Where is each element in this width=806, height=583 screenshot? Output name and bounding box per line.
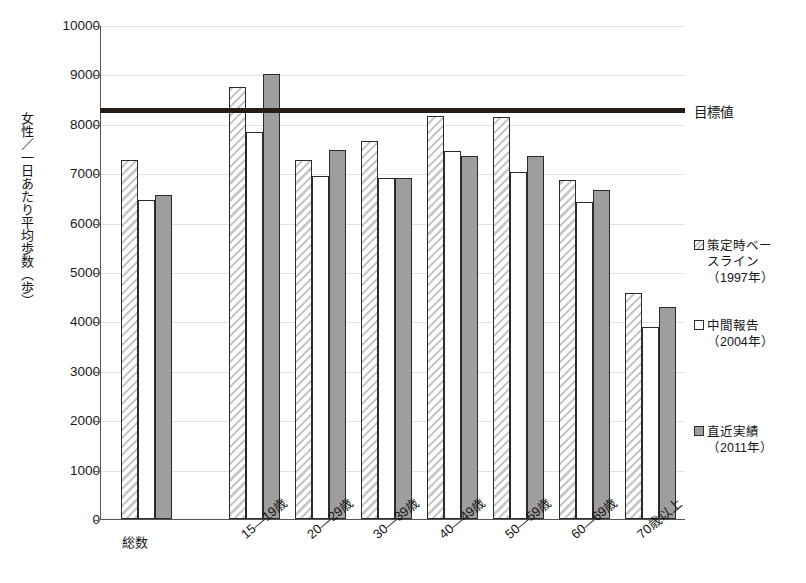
y-tick-label: 7000 (40, 166, 100, 181)
legend-label-line2: （2004年） (694, 334, 806, 350)
legend-label: 直近実績 (707, 424, 759, 440)
y-tick-label: 10000 (40, 18, 100, 33)
bar-group (625, 293, 676, 519)
bar (559, 180, 576, 519)
bar (155, 195, 172, 519)
bar-group (229, 74, 280, 519)
bar-group (559, 180, 610, 519)
bar (510, 172, 527, 519)
gridline (101, 75, 685, 76)
y-tick-mark (94, 520, 100, 521)
bar (444, 151, 461, 519)
bar (329, 150, 346, 519)
bar (642, 327, 659, 519)
gridline (101, 125, 685, 126)
y-axis-title: 女性／一日あたり平均歩数（歩） (8, 112, 34, 307)
legend-swatch-icon (694, 240, 704, 250)
bar (625, 293, 642, 519)
bar (461, 156, 478, 519)
bar (312, 176, 329, 519)
x-axis-label: 総数 (122, 532, 148, 551)
legend-label: 策定時ベー (707, 238, 772, 254)
bar (659, 307, 676, 519)
bar (593, 190, 610, 519)
y-tick-label: 8000 (40, 117, 100, 132)
gridline (101, 26, 685, 27)
bar-group (493, 117, 544, 519)
plot-area (100, 26, 685, 520)
legend-swatch-icon (694, 320, 704, 330)
bar (295, 160, 312, 519)
target-line-label: 目標値 (694, 101, 733, 121)
legend-label-line2: （2011年） (694, 440, 806, 456)
legend-item: 中間報告（2004年） (694, 318, 806, 350)
y-tick-label: 0 (40, 512, 100, 527)
y-tick-label: 2000 (40, 413, 100, 428)
legend-label-line2: スライン (694, 254, 806, 270)
bar (361, 141, 378, 519)
bar-group (427, 116, 478, 519)
y-tick-label: 3000 (40, 364, 100, 379)
y-tick-label: 9000 (40, 67, 100, 82)
bar (527, 156, 544, 519)
bar-group (361, 141, 412, 519)
y-tick-label: 4000 (40, 314, 100, 329)
legend-label: 中間報告 (707, 318, 759, 334)
legend-swatch-icon (694, 426, 704, 436)
bar (246, 132, 263, 519)
bar (121, 160, 138, 519)
y-tick-label: 6000 (40, 216, 100, 231)
bar (229, 87, 246, 519)
y-tick-label: 5000 (40, 265, 100, 280)
legend-item: 直近実績（2011年） (694, 424, 806, 456)
bar (576, 202, 593, 519)
bar (493, 117, 510, 519)
bar-group (121, 160, 172, 519)
target-reference-line (100, 108, 685, 113)
y-tick-label: 1000 (40, 463, 100, 478)
bar (427, 116, 444, 519)
bar (263, 74, 280, 519)
bar-group (295, 150, 346, 519)
bar-chart: 女性／一日あたり平均歩数（歩） 010002000300040005000600… (0, 0, 806, 583)
bar (378, 178, 395, 519)
bar (395, 178, 412, 519)
bar (138, 200, 155, 519)
legend-label-line3: （1997年） (694, 270, 806, 286)
legend-item: 策定時ベースライン（1997年） (694, 238, 806, 286)
